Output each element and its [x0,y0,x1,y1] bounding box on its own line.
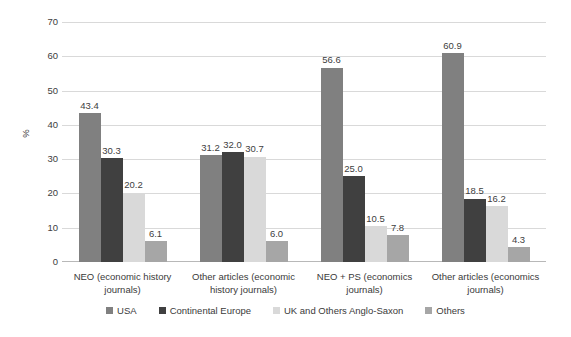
bar-chart: 706050403020100 % 43.430.320.26.131.232.… [0,0,571,337]
bar[interactable] [486,206,508,262]
bar-slot: 25.0 [343,22,365,262]
bar-slot: 16.2 [486,22,508,262]
category-label: Other articles (economics journals) [425,270,546,296]
bar-value-label: 10.5 [366,214,385,224]
bar-group: 43.430.320.26.1 [62,22,183,262]
bar-slot: 56.6 [321,22,343,262]
bar[interactable] [442,53,464,262]
bar[interactable] [266,241,288,262]
bar-slot: 32.0 [222,22,244,262]
bar-slot: 18.5 [464,22,486,262]
legend-item[interactable]: Continental Europe [159,306,251,316]
y-axis-tick-label: 30 [18,154,58,164]
bar-value-label: 43.4 [80,101,99,111]
legend-label: Others [436,306,465,316]
bar[interactable] [79,113,101,262]
bar-cluster: 43.430.320.26.1 [62,22,183,262]
bar[interactable] [101,158,123,262]
legend-label: USA [117,306,137,316]
bar[interactable] [343,176,365,262]
y-axis-tick-label: 10 [18,223,58,233]
bar-value-label: 20.2 [124,180,143,190]
bar-value-label: 16.2 [487,194,506,204]
legend-item[interactable]: UK and Others Anglo-Saxon [273,306,403,316]
bar-slot: 30.3 [101,22,123,262]
legend-label: UK and Others Anglo-Saxon [284,306,403,316]
legend-item[interactable]: Others [425,306,465,316]
bar[interactable] [387,235,409,262]
bar[interactable] [222,152,244,262]
y-axis-tick-label: 20 [18,189,58,199]
legend-swatch-icon [106,307,113,314]
bar[interactable] [145,241,167,262]
bar-cluster: 31.232.030.76.0 [183,22,304,262]
bar-slot: 4.3 [508,22,530,262]
bar-group: 60.918.516.24.3 [425,22,546,262]
chart-legend: USAContinental EuropeUK and Others Anglo… [0,306,571,316]
bar-value-label: 25.0 [344,164,363,174]
bar-slot: 31.2 [200,22,222,262]
bar-group: 56.625.010.57.8 [304,22,425,262]
legend-item[interactable]: USA [106,306,137,316]
bar-slot: 7.8 [387,22,409,262]
bar-value-label: 18.5 [465,186,484,196]
bar-cluster: 56.625.010.57.8 [304,22,425,262]
bar-slot: 60.9 [442,22,464,262]
category-label: Other articles (economic history journal… [183,270,304,296]
bar-value-label: 60.9 [443,41,462,51]
bar[interactable] [464,199,486,262]
legend-swatch-icon [273,307,280,314]
category-label: NEO (economic history journals) [62,270,183,296]
bar[interactable] [321,68,343,262]
bar-value-label: 30.7 [245,144,264,154]
bar-slot: 20.2 [123,22,145,262]
bar-value-label: 56.6 [322,55,341,65]
bar-cluster: 60.918.516.24.3 [425,22,546,262]
bar[interactable] [244,157,266,262]
bar[interactable] [508,247,530,262]
bar-slot: 30.7 [244,22,266,262]
legend-swatch-icon [159,307,166,314]
legend-swatch-icon [425,307,432,314]
bar[interactable] [365,226,387,262]
y-axis-tick-label: 70 [18,17,58,27]
bar-value-label: 7.8 [391,223,404,233]
bar-value-label: 32.0 [223,140,242,150]
bar-slot: 6.0 [266,22,288,262]
bar-group: 31.232.030.76.0 [183,22,304,262]
y-axis-tick-label: 50 [18,86,58,96]
y-axis-tick-label: 60 [18,52,58,62]
bar-slot: 6.1 [145,22,167,262]
category-label: NEO + PS (economics journals) [304,270,425,296]
legend-label: Continental Europe [170,306,251,316]
bar-slot: 43.4 [79,22,101,262]
bar[interactable] [123,193,145,262]
y-axis-title: % [20,122,31,146]
bar-value-label: 30.3 [102,146,121,156]
bar-value-label: 31.2 [201,143,220,153]
bar-value-label: 4.3 [512,235,525,245]
plot-area: 43.430.320.26.131.232.030.76.056.625.010… [62,22,546,262]
bar-value-label: 6.1 [149,229,162,239]
bar-slot: 10.5 [365,22,387,262]
bar-value-label: 6.0 [270,229,283,239]
y-axis-tick-label: 0 [18,257,58,267]
bar[interactable] [200,155,222,262]
